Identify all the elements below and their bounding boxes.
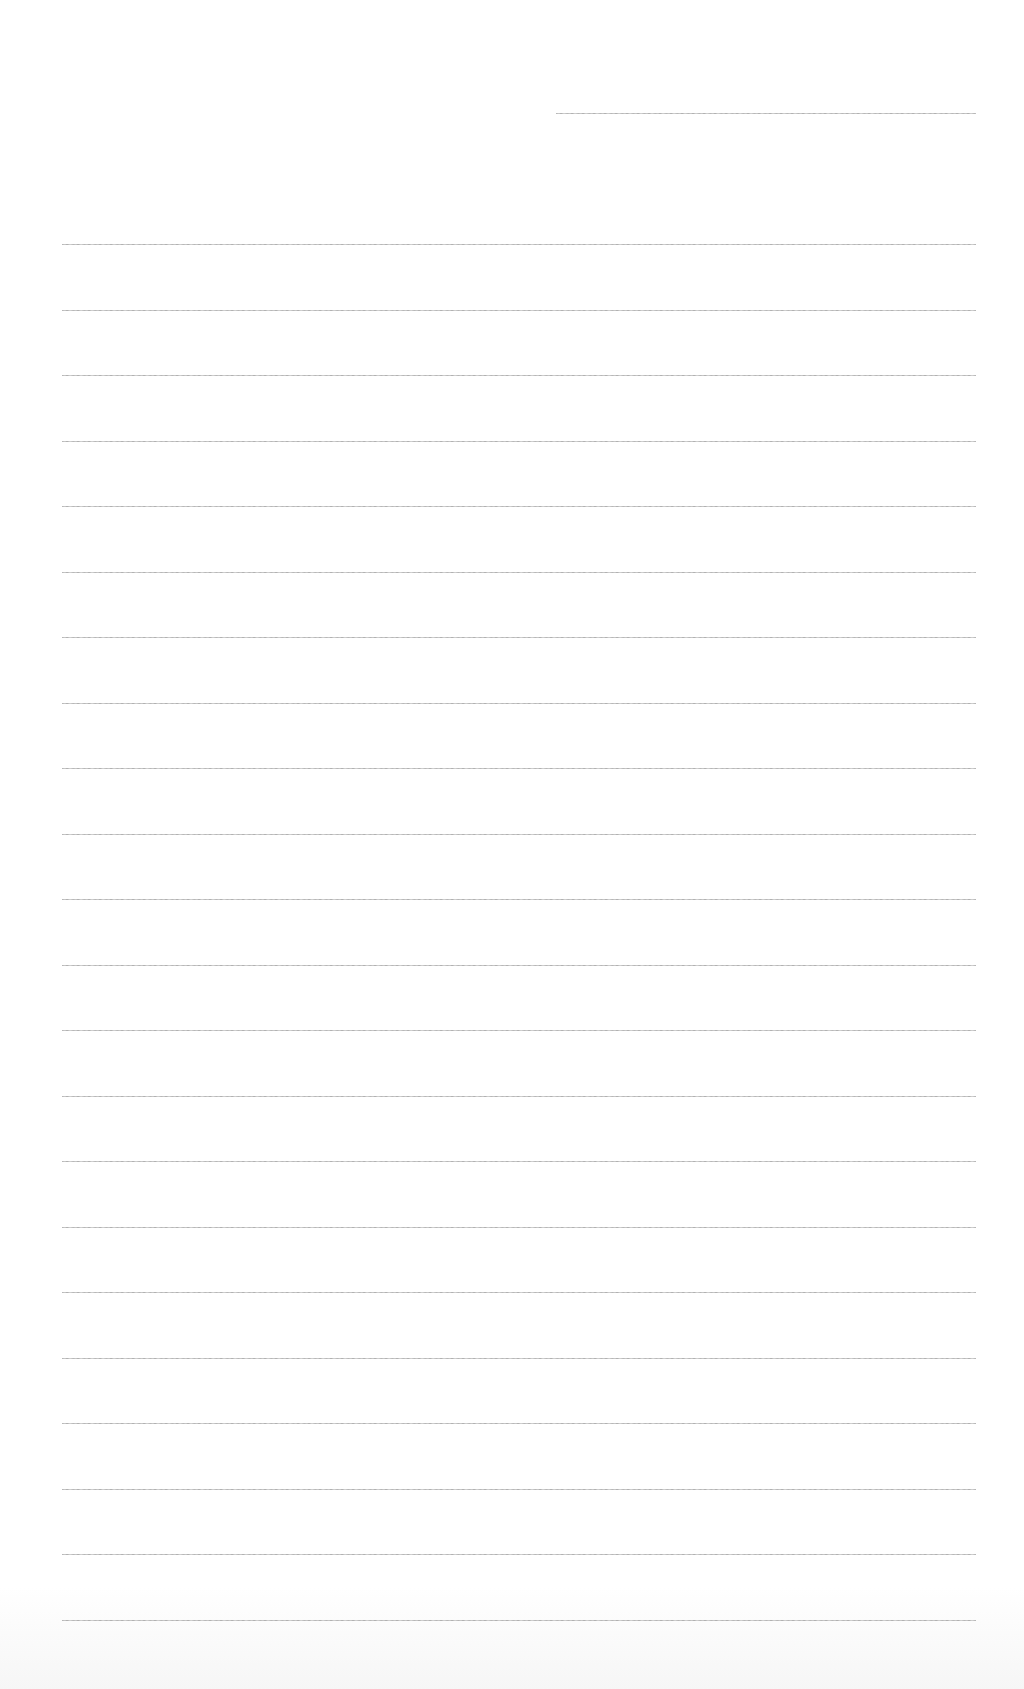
ruled-line [62, 244, 976, 245]
ruled-line [62, 375, 976, 376]
ruled-line [62, 1292, 976, 1293]
ruled-line [62, 310, 976, 311]
ruled-line [62, 1358, 976, 1359]
ruled-line [62, 1423, 976, 1424]
ruled-line [62, 572, 976, 573]
ruled-line [62, 1227, 976, 1228]
ruled-line [62, 965, 976, 966]
ruled-line [62, 506, 976, 507]
ruled-lines [0, 0, 1024, 1689]
ruled-paper-page [0, 0, 1024, 1689]
ruled-line [62, 1489, 976, 1490]
ruled-line [62, 1161, 976, 1162]
ruled-line [62, 703, 976, 704]
ruled-line [62, 834, 976, 835]
ruled-line [62, 899, 976, 900]
ruled-line [62, 1096, 976, 1097]
ruled-line [62, 1554, 976, 1555]
ruled-line [62, 1620, 976, 1621]
ruled-line [62, 637, 976, 638]
ruled-line [62, 441, 976, 442]
ruled-line [62, 768, 976, 769]
ruled-line [62, 1030, 976, 1031]
